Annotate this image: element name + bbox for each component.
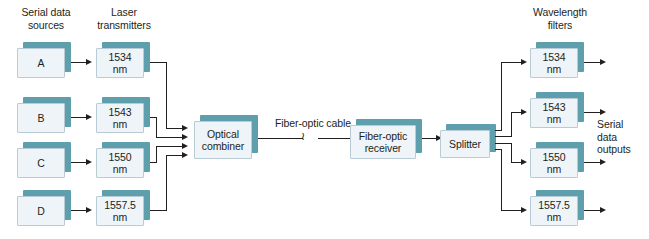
arrowhead-split-1550 <box>521 159 527 165</box>
splitter-box[interactable]: Splitter <box>440 124 490 152</box>
source-box-d[interactable]: D <box>17 190 65 220</box>
box-face: 1557.5 nm <box>96 196 144 226</box>
box-face: D <box>17 196 65 226</box>
box-face: Fiber-optic receiver <box>350 125 416 159</box>
optical-combiner-box[interactable]: Optical combiner <box>194 115 252 153</box>
arrowhead-tx1543-combiner <box>182 134 188 140</box>
arrowhead-split-1557 <box>521 207 527 213</box>
arrowhead-tx1550-combiner <box>182 143 188 149</box>
filter-box-1550[interactable]: 1550 nm <box>530 142 578 172</box>
splitter-label: Splitter <box>449 138 481 150</box>
route-tx1550-v <box>156 146 157 163</box>
route-tx1557-h1 <box>150 210 167 211</box>
heading-serial-data-sources: Serial data sources <box>4 6 88 31</box>
route-tx1557-v <box>166 155 167 211</box>
box-face: Optical combiner <box>194 121 252 159</box>
optical-combiner-label: Optical combiner <box>202 128 244 152</box>
filter-label: 1543 nm <box>543 101 566 125</box>
arrowhead-b-to-tx <box>86 114 92 120</box>
transmitter-box-1557-5[interactable]: 1557.5 nm <box>96 190 144 220</box>
filter-label: 1534 nm <box>543 51 566 75</box>
route-tx1534-h1 <box>150 62 167 63</box>
arrowhead-tx1557-combiner <box>182 152 188 158</box>
cable-break-icon: ≀ <box>301 131 304 142</box>
box-face: 1534 nm <box>96 48 144 78</box>
route-split-1543-v <box>511 112 512 137</box>
filter-box-1557-5[interactable]: 1557.5 nm <box>530 190 578 220</box>
transmitter-label: 1534 nm <box>109 51 132 75</box>
box-face: 1557.5 nm <box>530 196 578 226</box>
fiber-optic-receiver-box[interactable]: Fiber-optic receiver <box>350 119 416 153</box>
source-label: A <box>38 57 45 69</box>
filter-label: 1550 nm <box>543 151 566 175</box>
fiber-cable-segment-left <box>258 138 303 139</box>
source-box-a[interactable]: A <box>17 42 65 72</box>
arrowhead-split-1534 <box>521 59 527 65</box>
transmitter-label: 1550 nm <box>109 151 132 175</box>
arrowhead-output-1550 <box>600 159 606 165</box>
arrowhead-output-1543 <box>600 109 606 115</box>
transmitter-box-1543[interactable]: 1543 nm <box>96 97 144 127</box>
arrowhead-c-to-tx <box>86 159 92 165</box>
box-face: A <box>17 48 65 78</box>
filter-box-1543[interactable]: 1543 nm <box>530 92 578 122</box>
arrowhead-tx1534-combiner <box>182 125 188 131</box>
transmitter-box-1534[interactable]: 1534 nm <box>96 42 144 72</box>
route-split-1534-v <box>501 62 502 131</box>
box-face: 1543 nm <box>96 103 144 133</box>
box-face: 1534 nm <box>530 48 578 78</box>
box-face: 1543 nm <box>530 98 578 128</box>
transmitter-box-1550[interactable]: 1550 nm <box>96 142 144 172</box>
serial-data-outputs-label: Serial data outputs <box>597 118 649 156</box>
box-face: B <box>17 103 65 133</box>
route-split-1550-v <box>511 143 512 163</box>
heading-wavelength-filters: Wavelength filters <box>512 6 608 31</box>
source-box-b[interactable]: B <box>17 97 65 127</box>
arrowhead-a-to-tx <box>86 59 92 65</box>
fiber-optic-receiver-label: Fiber-optic receiver <box>359 130 408 154</box>
source-box-c[interactable]: C <box>17 142 65 172</box>
source-label: D <box>37 205 44 217</box>
source-label: B <box>38 112 45 124</box>
transmitter-label: 1557.5 nm <box>104 199 136 223</box>
route-split-1550-h1 <box>495 143 512 144</box>
route-tx1534-v <box>166 62 167 129</box>
filter-box-1534[interactable]: 1534 nm <box>530 42 578 72</box>
route-split-1557-v <box>501 149 502 211</box>
heading-laser-transmitters: Laser transmitters <box>82 6 166 31</box>
arrowhead-d-to-tx <box>86 207 92 213</box>
arrowhead-output-1534 <box>600 59 606 65</box>
route-split-1543-h1 <box>495 136 512 137</box>
wdm-diagram: Serial data sources Laser transmitters W… <box>0 0 649 239</box>
filter-label: 1557.5 nm <box>538 199 570 223</box>
box-face: Splitter <box>440 130 490 158</box>
arrowhead-split-1543 <box>521 109 527 115</box>
box-face: 1550 nm <box>530 148 578 178</box>
fiber-cable-segment-right <box>318 138 350 139</box>
box-face: C <box>17 148 65 178</box>
transmitter-label: 1543 nm <box>109 106 132 130</box>
box-face: 1550 nm <box>96 148 144 178</box>
route-tx1543-v <box>156 117 157 138</box>
source-label: C <box>37 157 44 169</box>
arrowhead-output-1557-5 <box>600 207 606 213</box>
